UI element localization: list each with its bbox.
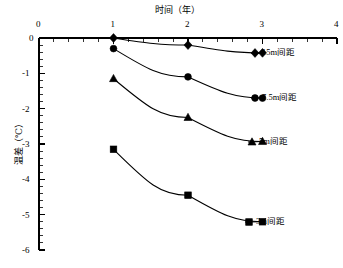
legend-label-5m间距: 5m间距 <box>259 137 288 146</box>
axes <box>39 38 337 250</box>
legend-marker-15m间距 <box>251 49 259 58</box>
series-line-3m间距 <box>114 149 263 221</box>
y-tick-label: -2 <box>22 105 30 114</box>
legend-label-7.5m间距: 7.5m间距 <box>262 93 297 102</box>
y-tick-label: -6 <box>22 246 30 255</box>
y-tick-label: -1 <box>22 69 30 78</box>
x-tick-label: 4 <box>334 20 339 29</box>
legend-marker-3m间距 <box>246 219 253 226</box>
y-tick-label: -5 <box>22 211 30 220</box>
data-point-5m间距 <box>184 113 192 120</box>
y-tick-label: -4 <box>22 175 30 184</box>
x-tick-label: 3 <box>260 20 265 29</box>
data-point-3m间距 <box>185 192 192 199</box>
data-point-15m间距 <box>110 34 118 43</box>
data-point-7.5m间距 <box>185 73 192 80</box>
data-point-15m间距 <box>184 41 192 50</box>
x-axis-title: 时间（年） <box>155 6 200 15</box>
legend-markers <box>246 49 259 226</box>
legend-label-3m间距: 3m间距 <box>256 217 285 226</box>
line-chart: 时间（年） 温差（℃） 01234 0-1-2-3-4-5-6 15m间距7.5… <box>0 0 343 268</box>
x-tick-label: 1 <box>111 20 116 29</box>
x-tick-label: 0 <box>36 20 41 29</box>
data-series-group <box>110 34 267 225</box>
legend-label-15m间距: 15m间距 <box>262 48 295 57</box>
x-tick-label: 2 <box>185 20 190 29</box>
series-line-5m间距 <box>114 79 263 142</box>
y-tick-label: -3 <box>22 140 30 149</box>
data-point-5m间距 <box>110 74 118 81</box>
data-point-3m间距 <box>110 146 117 153</box>
y-tick-label: 0 <box>29 34 34 43</box>
legend-marker-7.5m间距 <box>252 95 259 102</box>
chart-canvas <box>0 0 343 268</box>
y-axis-ticks <box>39 38 45 250</box>
data-point-7.5m间距 <box>110 45 117 52</box>
